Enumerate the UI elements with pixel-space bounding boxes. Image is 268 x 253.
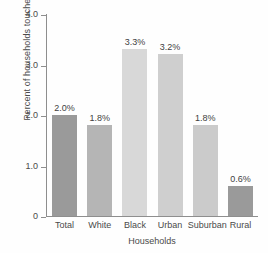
bar [158, 54, 183, 216]
bar-series: 2.0%1.8%3.3%3.2%1.8%0.6% [47, 14, 258, 216]
y-axis-tick: 2.0 [41, 116, 46, 117]
x-axis-tick-label: Total [47, 220, 82, 230]
bar-slot: 1.8% [193, 14, 218, 216]
y-axis-tick-label: 3.0 [25, 60, 38, 70]
x-axis-tick-label: Urban [153, 220, 188, 230]
x-axis-tick-label: Rural [223, 220, 258, 230]
bar [87, 125, 112, 216]
bar [52, 115, 77, 216]
bar-slot: 0.6% [228, 14, 253, 216]
y-axis-tick: 1.0 [41, 167, 46, 168]
y-axis-tick-label: 2.0 [25, 110, 38, 120]
y-axis-tick-label: 4.0 [25, 9, 38, 19]
bar-slot: 3.3% [122, 14, 147, 216]
y-axis-title: Percent of households touched [22, 0, 32, 142]
y-axis-tick-label: 1.0 [25, 161, 38, 171]
y-axis-tick: 4.0 [41, 15, 46, 16]
bar-slot: 2.0% [52, 14, 77, 216]
bar [193, 125, 218, 216]
bar-value-label: 1.8% [89, 113, 110, 123]
bar-slot: 3.2% [158, 14, 183, 216]
bar [228, 186, 253, 216]
x-axis-line [46, 216, 258, 217]
bar [122, 49, 147, 216]
y-axis-tick: 3.0 [41, 66, 46, 67]
bar-value-label: 3.2% [160, 42, 181, 52]
bar-value-label: 0.6% [230, 174, 251, 184]
plot-area: 01.02.03.04.0 2.0%1.8%3.3%3.2%1.8%0.6% [46, 14, 258, 217]
bar-value-label: 1.8% [195, 113, 216, 123]
x-axis-title: Households [46, 236, 258, 246]
bar-slot: 1.8% [87, 14, 112, 216]
y-axis-tick-label: 0 [33, 211, 38, 221]
x-axis-tick-labels: TotalWhiteBlackUrbanSuburbanRural [46, 220, 258, 234]
x-axis-tick-label: White [82, 220, 117, 230]
bar-value-label: 2.0% [54, 103, 75, 113]
bar-chart: Percent of households touched 01.02.03.0… [0, 0, 268, 253]
x-axis-tick-label: Black [117, 220, 152, 230]
x-axis-tick-label: Suburban [188, 220, 223, 230]
bar-value-label: 3.3% [125, 37, 146, 47]
y-axis-tick: 0 [41, 217, 46, 218]
